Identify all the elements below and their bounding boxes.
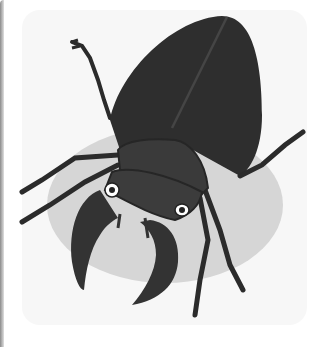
- image-frame: [0, 0, 323, 347]
- stag-beetle-illustration: [0, 0, 323, 347]
- pupil-right: [179, 207, 185, 213]
- antenna-left: [72, 42, 110, 118]
- pupil-left: [109, 187, 115, 193]
